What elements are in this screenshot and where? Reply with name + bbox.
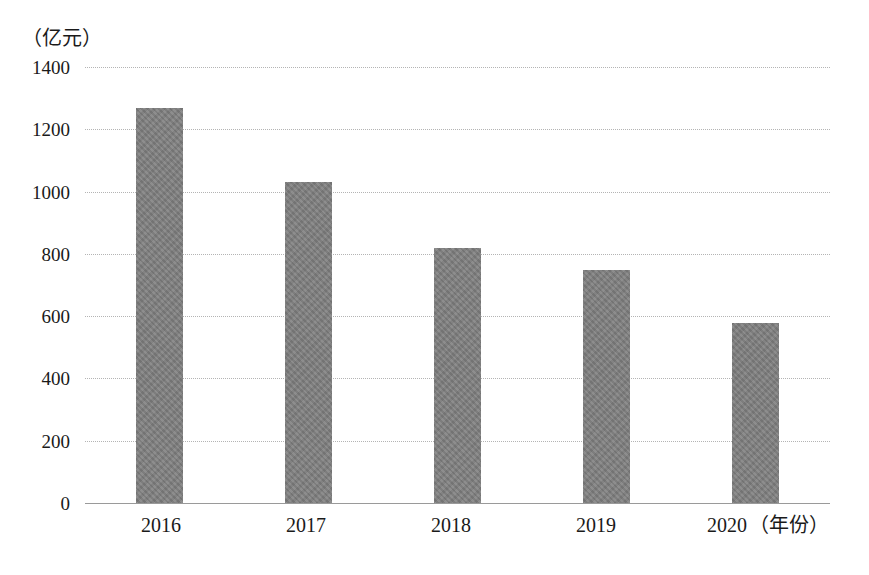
y-tick-label: 400 [10,369,70,388]
y-tick-label: 1400 [10,58,70,77]
axis-baseline [85,503,830,504]
y-tick-label: 1200 [10,120,70,139]
y-tick-label: 0 [10,494,70,513]
x-tick-text: 2018 [431,514,471,536]
x-tick-label-2020: 2020（年份） [707,512,829,538]
bar-2020 [732,323,779,503]
bar-2016 [136,108,183,504]
y-tick-label: 600 [10,307,70,326]
x-tick-label-2017: 2017 [286,512,326,538]
bar-chart: （亿元） 0 200 400 600 800 1000 1200 1400 20… [0,0,869,575]
y-axis-unit-label: （亿元） [22,26,102,50]
bar-series [85,67,830,503]
y-axis-tick-labels: 0 200 400 600 800 1000 1200 1400 [0,67,70,503]
x-tick-label-2018: 2018 [431,512,471,538]
y-tick-label: 800 [10,244,70,263]
plot-area [85,67,830,503]
x-axis-tick-labels: 2016 2017 2018 2019 2020（年份） [85,512,830,544]
y-tick-label: 1000 [10,182,70,201]
x-tick-text: 2017 [286,514,326,536]
x-tick-text: 2020 [707,514,747,536]
x-tick-text: 2019 [576,514,616,536]
x-tick-text: 2016 [141,514,181,536]
y-tick-label: 200 [10,431,70,450]
x-tick-label-2016: 2016 [141,512,181,538]
bar-2017 [285,182,332,503]
bar-2019 [583,270,630,503]
bar-2018 [434,248,481,503]
x-tick-label-2019: 2019 [576,512,616,538]
x-axis-caption: （年份） [749,514,829,536]
